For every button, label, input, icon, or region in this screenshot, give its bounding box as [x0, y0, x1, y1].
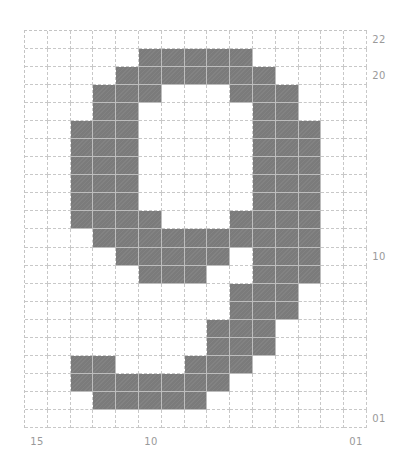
- empty-cell: [185, 320, 208, 338]
- filled-cell: [276, 157, 299, 175]
- empty-cell: [93, 31, 116, 49]
- empty-cell: [344, 103, 367, 121]
- filled-cell: [276, 139, 299, 157]
- filled-cell: [116, 374, 139, 392]
- empty-cell: [344, 320, 367, 338]
- empty-cell: [48, 248, 71, 266]
- empty-cell: [48, 85, 71, 103]
- empty-cell: [299, 392, 322, 410]
- empty-cell: [25, 229, 48, 247]
- filled-cell: [207, 320, 230, 338]
- filled-cell: [276, 248, 299, 266]
- empty-cell: [207, 284, 230, 302]
- filled-cell: [93, 85, 116, 103]
- empty-cell: [162, 175, 185, 193]
- empty-cell: [207, 193, 230, 211]
- empty-cell: [93, 284, 116, 302]
- filled-cell: [207, 229, 230, 247]
- filled-cell: [93, 103, 116, 121]
- empty-cell: [207, 157, 230, 175]
- empty-cell: [299, 338, 322, 356]
- empty-cell: [276, 67, 299, 85]
- filled-cell: [139, 211, 162, 229]
- empty-cell: [48, 121, 71, 139]
- empty-cell: [344, 139, 367, 157]
- filled-cell: [71, 139, 94, 157]
- filled-cell: [93, 193, 116, 211]
- filled-cell: [276, 229, 299, 247]
- empty-cell: [48, 410, 71, 428]
- empty-cell: [71, 338, 94, 356]
- empty-cell: [344, 229, 367, 247]
- col-label-15: 15: [30, 436, 43, 447]
- filled-cell: [71, 374, 94, 392]
- empty-cell: [207, 121, 230, 139]
- filled-cell: [93, 374, 116, 392]
- empty-cell: [230, 157, 253, 175]
- empty-cell: [276, 49, 299, 67]
- empty-cell: [25, 320, 48, 338]
- empty-cell: [344, 302, 367, 320]
- empty-cell: [207, 103, 230, 121]
- empty-cell: [230, 248, 253, 266]
- empty-cell: [321, 193, 344, 211]
- empty-cell: [207, 175, 230, 193]
- filled-cell: [116, 85, 139, 103]
- empty-cell: [321, 320, 344, 338]
- empty-cell: [25, 338, 48, 356]
- row-label-20: 20: [372, 70, 385, 81]
- filled-cell: [116, 392, 139, 410]
- empty-cell: [185, 284, 208, 302]
- filled-cell: [230, 356, 253, 374]
- empty-cell: [48, 139, 71, 157]
- empty-cell: [185, 157, 208, 175]
- empty-cell: [185, 193, 208, 211]
- empty-cell: [93, 338, 116, 356]
- empty-cell: [139, 284, 162, 302]
- empty-cell: [344, 410, 367, 428]
- filled-cell: [71, 175, 94, 193]
- pixel-grid: [24, 30, 367, 428]
- filled-cell: [299, 139, 322, 157]
- empty-cell: [139, 338, 162, 356]
- empty-cell: [299, 302, 322, 320]
- empty-cell: [25, 284, 48, 302]
- empty-cell: [321, 374, 344, 392]
- empty-cell: [321, 229, 344, 247]
- empty-cell: [207, 31, 230, 49]
- empty-cell: [48, 211, 71, 229]
- empty-cell: [71, 320, 94, 338]
- empty-cell: [116, 49, 139, 67]
- empty-cell: [321, 356, 344, 374]
- empty-cell: [71, 229, 94, 247]
- empty-cell: [299, 31, 322, 49]
- empty-cell: [230, 374, 253, 392]
- filled-cell: [253, 266, 276, 284]
- empty-cell: [25, 175, 48, 193]
- filled-cell: [230, 211, 253, 229]
- filled-cell: [253, 157, 276, 175]
- empty-cell: [25, 248, 48, 266]
- filled-cell: [253, 85, 276, 103]
- empty-cell: [25, 139, 48, 157]
- filled-cell: [93, 229, 116, 247]
- filled-cell: [185, 229, 208, 247]
- empty-cell: [25, 302, 48, 320]
- filled-cell: [253, 103, 276, 121]
- empty-cell: [185, 410, 208, 428]
- empty-cell: [93, 266, 116, 284]
- empty-cell: [71, 302, 94, 320]
- empty-cell: [162, 338, 185, 356]
- empty-cell: [71, 266, 94, 284]
- empty-cell: [71, 103, 94, 121]
- empty-cell: [139, 139, 162, 157]
- filled-cell: [93, 356, 116, 374]
- filled-cell: [71, 121, 94, 139]
- empty-cell: [48, 302, 71, 320]
- filled-cell: [116, 229, 139, 247]
- empty-cell: [299, 49, 322, 67]
- empty-cell: [162, 103, 185, 121]
- filled-cell: [116, 139, 139, 157]
- empty-cell: [230, 392, 253, 410]
- empty-cell: [93, 49, 116, 67]
